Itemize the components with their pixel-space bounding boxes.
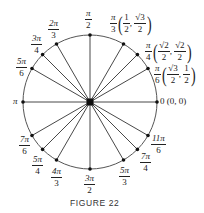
label-den: 4 <box>35 166 40 176</box>
coord-y-num: 1 <box>183 64 190 75</box>
paren-open: ( <box>153 42 158 62</box>
label-5pi-over-6: 5π6 <box>16 57 27 78</box>
label-11pi-over-6: 11π6 <box>151 134 166 155</box>
label-num: 0 <box>160 96 165 106</box>
label-zero: 0 (0, 0) <box>160 97 186 106</box>
label-coord: (0, 0) <box>167 96 187 106</box>
label-den: 4 <box>143 163 148 173</box>
label-den: 6 <box>155 75 160 85</box>
label-3pi-over-4: 3π4 <box>31 34 42 55</box>
label-den: 3 <box>111 24 116 34</box>
paren-close: ) <box>147 14 152 34</box>
label-den: 4 <box>34 45 39 55</box>
label-pi-over-3: π3 ( 12, √32 ) <box>110 13 152 34</box>
coord-y-den: 2 <box>184 75 189 85</box>
coord-y-num: √3 <box>134 13 145 24</box>
label-den: 6 <box>19 68 24 78</box>
paren-open: ( <box>118 14 123 34</box>
label-3pi-over-2: 3π2 <box>84 174 95 195</box>
label-num: 11π <box>151 134 166 145</box>
label-num: 5π <box>16 57 27 68</box>
label-2pi-over-3: 2π3 <box>48 19 59 40</box>
label-pi-over-2: π2 <box>85 9 92 30</box>
label-num: π <box>85 9 92 20</box>
coord-x-num: √2 <box>158 41 169 52</box>
label-num: 4π <box>51 167 62 178</box>
label-num: π <box>145 41 152 52</box>
label-den: 2 <box>87 185 92 195</box>
label-den: 3 <box>122 177 127 187</box>
label-den: 6 <box>156 145 161 155</box>
label-den: 3 <box>51 30 56 40</box>
label-num: 3π <box>31 34 42 45</box>
coord-x-num: √3 <box>167 64 178 75</box>
paren-open: ( <box>162 65 167 85</box>
label-num: 2π <box>48 19 59 30</box>
label-7pi-over-6: 7π6 <box>19 135 30 156</box>
coord-y-den: 2 <box>138 24 143 34</box>
label-num: π <box>13 96 18 106</box>
paren-close: ) <box>191 65 196 85</box>
label-num: 5π <box>119 166 130 177</box>
coord-x-den: 2 <box>171 75 176 85</box>
label-num: π <box>154 64 161 75</box>
label-num: 5π <box>32 155 43 166</box>
coord-x-den: 2 <box>162 52 167 62</box>
label-num: 3π <box>84 174 95 185</box>
label-num: 7π <box>140 152 151 163</box>
label-den: 3 <box>54 178 59 188</box>
coord-x-num: 1 <box>123 13 130 24</box>
label-5pi-over-3: 5π3 <box>119 166 130 187</box>
label-7pi-over-4: 7π4 <box>140 152 151 173</box>
label-pi: π <box>13 97 18 106</box>
label-pi-over-4: π4 ( √22, √22 ) <box>145 41 192 62</box>
label-den: 2 <box>86 20 91 30</box>
paren-close: ) <box>187 42 192 62</box>
label-4pi-over-3: 4π3 <box>51 167 62 188</box>
origin-dot <box>87 99 94 106</box>
label-5pi-over-4: 5π4 <box>32 155 43 176</box>
label-pi-over-6: π6 ( √32, 12 ) <box>154 64 196 85</box>
coord-y-den: 2 <box>178 52 183 62</box>
coord-y-num: √2 <box>174 41 185 52</box>
coord-x-den: 2 <box>124 24 129 34</box>
unit-circle-diagram <box>0 0 204 213</box>
label-den: 6 <box>22 146 27 156</box>
label-num: π <box>110 13 117 24</box>
figure-caption: FIGURE 22 <box>70 198 119 208</box>
label-num: 7π <box>19 135 30 146</box>
label-den: 4 <box>146 52 151 62</box>
